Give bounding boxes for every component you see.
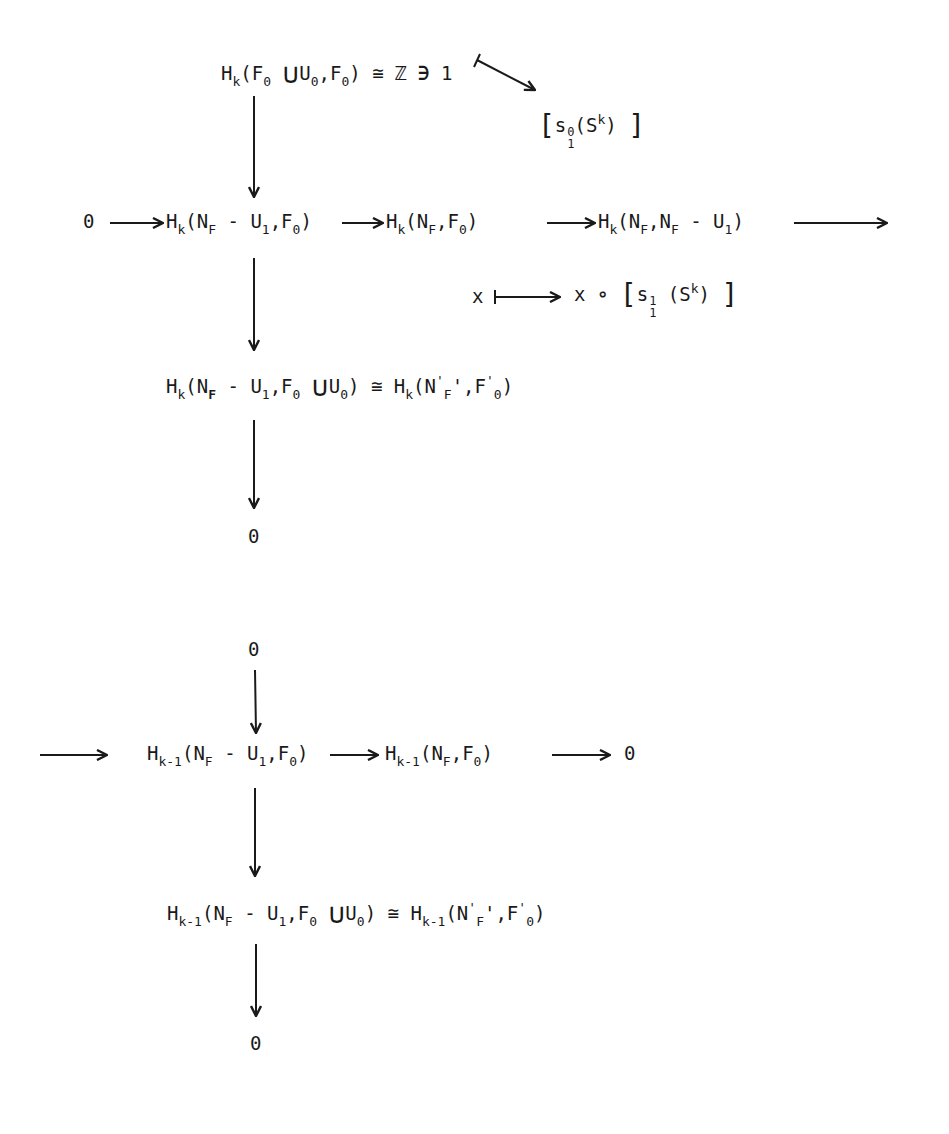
zero-after-mid: 0 (248, 527, 259, 546)
mid-node: Hk(NF - U1,F0 ∪U0) ≅ Hk(N'F',F'0) (166, 373, 513, 401)
row1-zero: 0 (83, 212, 94, 231)
class-s10-node: [s01(Sk) ] (538, 112, 645, 150)
arrows-layer (0, 0, 949, 1134)
map-label-image: x ∘ [s11 (Sk) ] (574, 281, 738, 319)
row2-b-node: Hk-1(NF,F0) (385, 744, 493, 768)
top-group-node: Hk(F0 ∪U0,F0) ≅ ℤ ∋ 1 (221, 60, 452, 88)
integers-symbol: ℤ (395, 62, 406, 84)
maps-to-arrow-one (477, 60, 535, 90)
row2-zero: 0 (624, 744, 635, 763)
row1-c-node: Hk(NF,NF - U1) (598, 212, 744, 236)
arrow-zero-to-row2a (255, 670, 256, 733)
cup-symbol: ∪ (282, 57, 299, 90)
zero-end: 0 (250, 1034, 261, 1053)
row2-a-node: Hk-1(NF - U1,F0) (147, 744, 309, 768)
zero-before-row2: 0 (248, 640, 259, 659)
row1-a-node: Hk(NF - U1,F0) (166, 212, 312, 236)
iso-symbol: ≅ (372, 62, 383, 84)
row1-b-node: Hk(NF,F0) (386, 212, 478, 236)
contains-symbol: ∋ (418, 62, 429, 84)
bottom-node: Hk-1(NF - U1,F0 ∪U0) ≅ Hk-1(N'F',F'0) (167, 900, 545, 928)
one-element: 1 (441, 62, 452, 84)
map-label-x: x (472, 287, 483, 306)
